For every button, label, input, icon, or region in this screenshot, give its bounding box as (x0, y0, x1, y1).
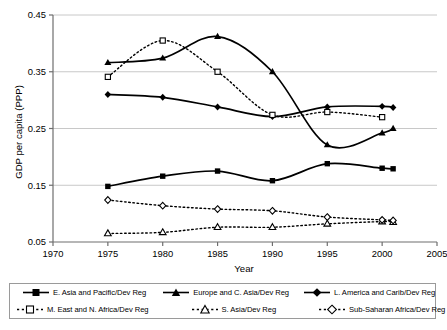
y-tick-label: 0.35 (28, 66, 46, 77)
open-diamond-marker (324, 214, 330, 221)
open-square-marker (380, 115, 385, 120)
x-tick-labels: 19701975198019851990199520002005 (43, 248, 447, 259)
x-tick-label: 1995 (317, 248, 338, 259)
y-tick-label: 0.15 (28, 180, 46, 191)
line-chart-svg: 0.050.150.250.350.45 1970197519801985199… (0, 0, 447, 278)
open-triangle-marker (104, 230, 111, 236)
filled-diamond-marker (214, 103, 220, 110)
filled-diamond-marker (379, 103, 385, 110)
filled-diamond-icon (303, 287, 331, 298)
series-2 (105, 91, 397, 120)
open-diamond-icon (318, 304, 346, 315)
x-tick-label: 2000 (372, 248, 393, 259)
open-square-marker (325, 109, 330, 114)
series-line (108, 222, 393, 234)
y-tick-labels: 0.050.150.250.350.45 (28, 9, 46, 247)
open-square-marker (105, 74, 110, 79)
y-tick-label: 0.45 (28, 9, 46, 20)
open-square-marker (215, 69, 220, 74)
open-diamond-marker (214, 206, 220, 213)
y-tick-label: 0.25 (28, 123, 46, 134)
filled-square-marker (105, 184, 110, 189)
filled-triangle-marker (390, 125, 397, 131)
legend-label: M. East and N. Africa/Dev Reg (47, 305, 149, 314)
x-tick-label: 1990 (262, 248, 283, 259)
open-square-marker (270, 112, 275, 117)
gridlines (53, 15, 437, 185)
open-diamond-marker (269, 207, 275, 214)
open-triangle-marker (214, 224, 221, 230)
legend-label: L. America and Carib/Dev Reg (334, 288, 435, 297)
open-triangle-icon (191, 304, 219, 315)
filled-square-marker (379, 166, 384, 171)
x-axis-title: Year (234, 263, 254, 274)
filled-triangle-icon (162, 287, 190, 298)
series-4 (104, 218, 396, 236)
chart-legend: E. Asia and Pacific/Dev Reg Europe and C… (9, 283, 436, 319)
filled-diamond-marker (390, 104, 396, 111)
x-tick-label: 1980 (152, 248, 173, 259)
data-series-layer (104, 33, 396, 236)
x-tick-label: 1975 (97, 248, 118, 259)
legend-item-l-america-and-carib[interactable]: L. America and Carib/Dev Reg (303, 287, 435, 298)
filled-diamond-marker (159, 94, 165, 101)
legend-item-m-east-and-n-africa[interactable]: M. East and N. Africa/Dev Reg (16, 304, 149, 315)
legend-label: E. Asia and Pacific/Dev Reg (53, 288, 146, 297)
legend-item-e-asia-and-pacific[interactable]: E. Asia and Pacific/Dev Reg (22, 287, 146, 298)
open-square-icon (16, 304, 44, 315)
series-1 (104, 33, 396, 148)
filled-square-marker (215, 168, 220, 173)
x-tick-label: 2005 (427, 248, 447, 259)
legend-label: Sub-Saharan Africa/Dev Reg (349, 305, 445, 314)
series-line (108, 163, 393, 186)
series-3 (105, 38, 384, 120)
legend-row-2: M. East and N. Africa/Dev Reg S. Asia/De… (10, 301, 435, 318)
filled-diamond-marker (105, 91, 111, 98)
x-tick-label: 1985 (207, 248, 228, 259)
series-line (108, 36, 393, 148)
x-axis-ticks (53, 242, 437, 246)
legend-item-s-asia[interactable]: S. Asia/Dev Reg (191, 304, 277, 315)
chart-figure: 0.050.150.250.350.45 1970197519801985199… (0, 0, 447, 330)
legend-label: Europe and C. Asia/Dev Reg (193, 288, 289, 297)
legend-row-1: E. Asia and Pacific/Dev Reg Europe and C… (10, 284, 435, 301)
filled-square-icon (22, 287, 50, 298)
y-tick-label: 0.05 (28, 236, 46, 247)
open-diamond-marker (160, 202, 166, 209)
plot-area: 0.050.150.250.350.45 1970197519801985199… (0, 0, 447, 278)
filled-square-marker (390, 166, 395, 171)
series-line (108, 200, 393, 220)
open-diamond-marker (105, 197, 111, 204)
open-triangle-marker (269, 224, 276, 230)
series-5 (105, 197, 397, 224)
legend-label: S. Asia/Dev Reg (222, 305, 277, 314)
filled-square-marker (160, 173, 165, 178)
legend-item-europe-and-c-asia[interactable]: Europe and C. Asia/Dev Reg (162, 287, 289, 298)
x-tick-label: 1970 (43, 248, 64, 259)
filled-square-marker (325, 161, 330, 166)
filled-square-marker (270, 178, 275, 183)
y-axis-title: GDP per capita (PPP) (13, 85, 24, 179)
open-triangle-marker (159, 229, 166, 235)
legend-item-sub-saharan-africa[interactable]: Sub-Saharan Africa/Dev Reg (318, 304, 445, 315)
open-square-marker (160, 38, 165, 43)
